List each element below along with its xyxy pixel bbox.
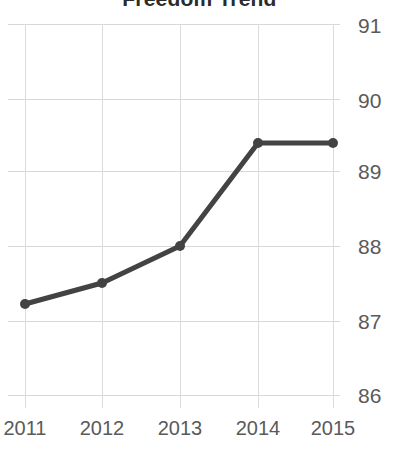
data-line xyxy=(25,143,333,304)
chart-screenshot: Freedom Trend 91 90 89 88 87 86 2011 201… xyxy=(0,0,399,452)
line-series-svg xyxy=(8,24,340,395)
data-point-2012 xyxy=(97,278,107,288)
x-axis-label-2012: 2012 xyxy=(67,418,137,438)
x-axis-label-2013: 2013 xyxy=(145,418,215,438)
y-axis-label-88: 88 xyxy=(358,236,398,257)
y-axis-label-89: 89 xyxy=(358,161,398,182)
x-axis-label-2011: 2011 xyxy=(0,418,60,438)
y-axis-label-91: 91 xyxy=(358,15,398,36)
x-axis-label-2015: 2015 xyxy=(298,418,368,438)
data-point-2014 xyxy=(253,138,263,148)
plot-area xyxy=(8,24,340,395)
y-axis-label-86: 86 xyxy=(358,385,398,406)
chart-title: Freedom Trend xyxy=(0,0,399,11)
y-axis-label-87: 87 xyxy=(358,311,398,332)
data-point-2013 xyxy=(175,241,185,251)
x-axis-label-2014: 2014 xyxy=(223,418,293,438)
gridline-86 xyxy=(8,395,340,396)
data-point-2015 xyxy=(328,138,338,148)
data-point-2011 xyxy=(20,299,30,309)
y-axis-label-90: 90 xyxy=(358,90,398,111)
